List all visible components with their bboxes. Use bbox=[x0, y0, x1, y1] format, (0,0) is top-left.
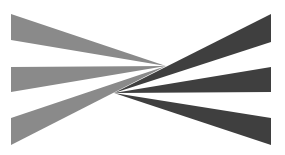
ray-diagram bbox=[0, 0, 285, 155]
right-ray-bottom bbox=[114, 93, 271, 145]
left-ray-top bbox=[11, 14, 166, 66]
